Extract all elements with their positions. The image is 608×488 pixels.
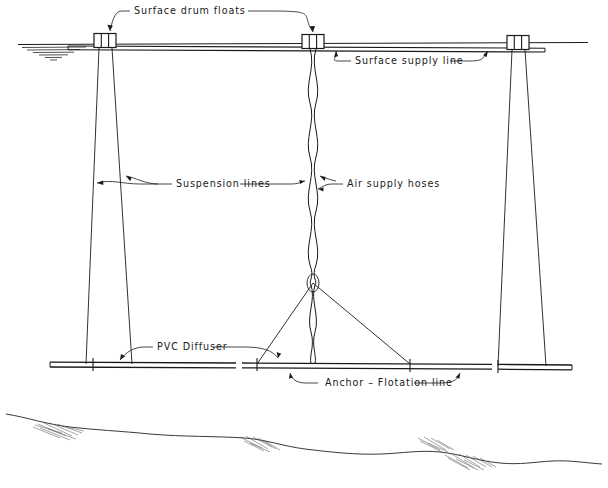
anchor-flotation-triangle [257,274,410,364]
water-ripple-icon [22,47,86,60]
air-supply-hoses [308,49,317,364]
engineering-diagram: Surface drum floats Surface supply line … [0,0,608,488]
diagram-canvas: Surface drum floats Surface supply line … [0,0,608,488]
label-pvc-diffuser: PVC Diffuser [157,341,228,352]
leader-lines [97,11,488,383]
label-surface-drum-floats: Surface drum floats [134,5,246,16]
seabed-hatch-right [418,437,454,452]
surface-drum-float-left[interactable] [94,34,116,48]
label-surface-supply-line: Surface supply line [355,55,464,66]
seabed-hatch-center-right [445,454,496,470]
lake-bed-profile [6,414,602,470]
label-air-supply-hoses: Air supply hoses [347,178,440,189]
label-anchor-flotation-line: Anchor – Flotation line [325,377,453,388]
surface-drum-float-center[interactable] [302,35,324,49]
surface-drum-float-right[interactable] [507,36,529,50]
label-suspension-lines: Suspension lines [176,178,271,189]
suspension-lines-left [86,48,132,364]
suspension-lines-right [498,50,546,366]
